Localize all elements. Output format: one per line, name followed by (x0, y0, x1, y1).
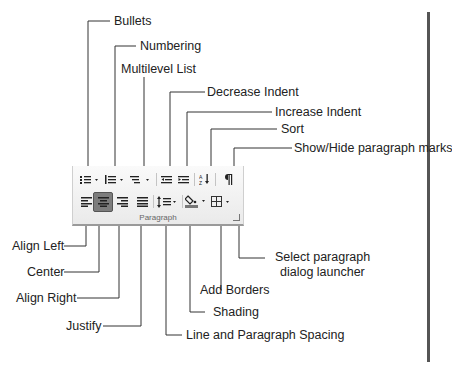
callout-justify: Justify (66, 319, 101, 333)
bullets-icon (79, 175, 101, 185)
line-spacing-button[interactable] (157, 194, 179, 209)
shading-icon (185, 194, 209, 208)
increase-indent-button[interactable] (177, 172, 191, 187)
separator (194, 173, 195, 186)
callout-sort: Sort (281, 122, 304, 136)
separator (215, 173, 216, 186)
callout-decrease-indent: Decrease Indent (207, 85, 299, 99)
callout-add-borders: Add Borders (200, 283, 269, 297)
callout-increase-indent: Increase Indent (275, 105, 361, 119)
increase-indent-icon (178, 175, 190, 185)
callout-align-right: Align Right (16, 291, 76, 305)
justify-button[interactable] (135, 194, 149, 209)
borders-button[interactable] (211, 194, 235, 209)
pilcrow-icon (225, 174, 233, 185)
svg-text:Z: Z (199, 180, 202, 185)
multilevel-list-icon (129, 175, 153, 185)
bullets-button[interactable] (79, 172, 101, 187)
callout-line-spacing: Line and Paragraph Spacing (186, 328, 344, 342)
callout-launcher-line1: Select paragraph (275, 250, 370, 264)
align-center-icon (98, 197, 109, 207)
borders-icon (211, 196, 235, 208)
callout-show-hide: Show/Hide paragraph marks (294, 141, 452, 155)
separator (182, 195, 183, 208)
callout-shading: Shading (213, 305, 259, 319)
group-label: Paragraph (73, 213, 243, 222)
callout-center: Center (27, 265, 65, 279)
callout-align-left: Align Left (12, 239, 64, 253)
multilevel-list-button[interactable] (129, 172, 153, 187)
callout-multilevel-list: Multilevel List (121, 62, 196, 76)
decrease-indent-icon (161, 175, 173, 185)
decrease-indent-button[interactable] (160, 172, 174, 187)
separator (156, 173, 157, 186)
numbering-icon (104, 175, 126, 185)
justify-icon (137, 197, 148, 207)
align-left-icon (81, 197, 92, 207)
numbering-button[interactable] (104, 172, 126, 187)
line-spacing-icon (157, 196, 179, 208)
dialog-launcher-icon[interactable] (233, 214, 240, 221)
align-right-button[interactable] (115, 194, 129, 209)
sort-button[interactable]: A Z (198, 172, 212, 187)
align-left-button[interactable] (79, 194, 93, 209)
center-button[interactable] (96, 194, 110, 209)
show-hide-button[interactable] (223, 172, 235, 187)
shading-button[interactable] (185, 193, 209, 208)
callout-numbering: Numbering (140, 39, 201, 53)
align-right-icon (117, 197, 128, 207)
callout-launcher-line2: dialog launcher (280, 265, 365, 279)
callout-bullets: Bullets (114, 14, 152, 28)
sort-icon: A Z (199, 174, 211, 185)
separator (153, 195, 154, 208)
paragraph-group: A Z (72, 166, 244, 226)
